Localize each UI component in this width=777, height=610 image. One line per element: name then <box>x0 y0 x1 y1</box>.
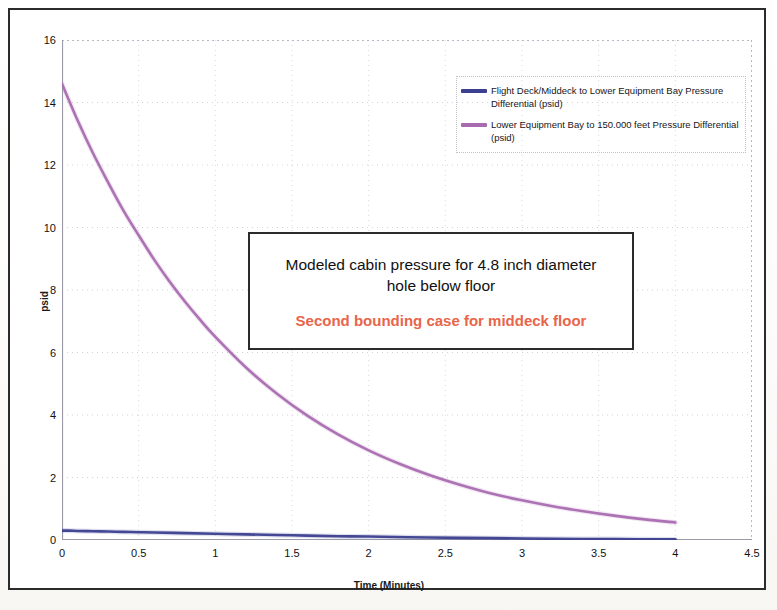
annotation-sub-text: Second bounding case for middeck floor <box>296 312 587 329</box>
y-tick-label: 8 <box>50 284 56 296</box>
x-tick-label: 2.5 <box>438 547 453 559</box>
annotation-box: Modeled cabin pressure for 4.8 inch diam… <box>248 232 634 350</box>
x-tick-label: 3.5 <box>591 547 606 559</box>
y-tick-label: 12 <box>44 159 56 171</box>
y-tick-label: 10 <box>44 222 56 234</box>
y-tick-label: 6 <box>50 347 56 359</box>
x-tick-label: 4.5 <box>744 547 759 559</box>
x-tick-label: 1 <box>212 547 218 559</box>
legend-entry-0: Flight Deck/Middeck to Lower Equipment B… <box>461 85 739 110</box>
figure-page: psid Time (Minutes) 0246810121416 00.511… <box>0 0 777 610</box>
y-axis-title: psid <box>39 282 50 322</box>
legend-entry-1: Lower Equipment Bay to 150.000 feet Pres… <box>461 119 739 144</box>
y-tick-label: 0 <box>50 534 56 546</box>
chart-legend: Flight Deck/Middeck to Lower Equipment B… <box>456 76 746 153</box>
annotation-main-text: Modeled cabin pressure for 4.8 inch diam… <box>281 254 601 296</box>
legend-entry-label: Flight Deck/Middeck to Lower Equipment B… <box>491 85 739 110</box>
legend-color-swatch <box>461 89 487 93</box>
x-axis-title: Time (Minutes) <box>10 580 768 591</box>
y-tick-label: 2 <box>50 472 56 484</box>
legend-entry-label: Lower Equipment Bay to 150.000 feet Pres… <box>491 119 739 144</box>
series-line-0 <box>62 531 675 540</box>
legend-color-swatch <box>461 123 487 127</box>
x-tick-label: 2 <box>366 547 372 559</box>
x-tick-label: 0.5 <box>131 547 146 559</box>
y-tick-label: 4 <box>50 409 56 421</box>
x-tick-label: 1.5 <box>284 547 299 559</box>
x-tick-label: 3 <box>519 547 525 559</box>
chart-frame: psid Time (Minutes) 0246810121416 00.511… <box>8 8 766 590</box>
x-tick-label: 4 <box>672 547 678 559</box>
y-tick-label: 14 <box>44 97 56 109</box>
y-tick-label: 16 <box>44 34 56 46</box>
x-tick-label: 0 <box>59 547 65 559</box>
